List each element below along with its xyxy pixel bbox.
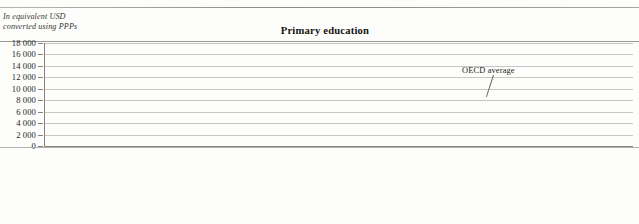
y-tick-label-10000: 10 000 xyxy=(12,84,36,94)
y-tick-mark-2000 xyxy=(38,135,43,136)
y-tick-mark-10000 xyxy=(38,89,43,90)
y-tick-mark-14000 xyxy=(38,66,43,67)
y-tick-label-4000: 4 000 xyxy=(16,118,36,128)
y-axis-labels: 18 00016 00014 00012 00010 0008 0006 000… xyxy=(0,43,42,146)
plot-area xyxy=(45,43,633,146)
title-rule xyxy=(0,41,639,42)
y-tick-label-18000: 18 000 xyxy=(12,38,36,48)
y-tick-mark-12000 xyxy=(38,77,43,78)
y-tick-label-8000: 8 000 xyxy=(16,95,36,105)
y-tick-label-2000: 2 000 xyxy=(16,130,36,140)
y-tick-mark-16000 xyxy=(38,54,43,55)
y-tick-mark-4000 xyxy=(38,123,43,124)
axis-unit-caption: In equivalent USD converted using PPPs xyxy=(3,12,123,31)
axis-unit-caption-line1: In equivalent USD xyxy=(3,12,123,22)
axis-unit-caption-line2: converted using PPPs xyxy=(3,22,123,32)
oecd-average-annotation: OECD average xyxy=(462,66,515,75)
bar-series xyxy=(45,43,633,146)
y-tick-label-0: 0 xyxy=(32,141,36,151)
chart-title: Primary education xyxy=(210,25,440,36)
y-tick-mark-8000 xyxy=(38,100,43,101)
y-tick-label-16000: 16 000 xyxy=(12,49,36,59)
y-tick-mark-6000 xyxy=(38,112,43,113)
y-tick-label-12000: 12 000 xyxy=(12,72,36,82)
page-top-rule xyxy=(0,7,639,8)
y-tick-label-6000: 6 000 xyxy=(16,107,36,117)
y-tick-mark-18000 xyxy=(38,43,43,44)
x-axis-labels xyxy=(45,148,633,224)
y-tick-label-14000: 14 000 xyxy=(12,61,36,71)
